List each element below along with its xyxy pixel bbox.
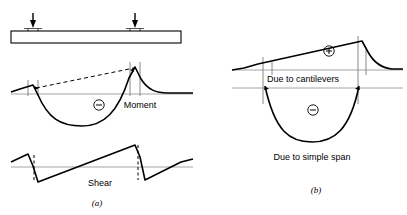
moment-negative-sign: [94, 100, 104, 110]
due-to-simple-span-label: Due to simple span: [273, 152, 350, 162]
shear-diagram-label: Shear: [88, 178, 112, 188]
shear-diagram-curve: [11, 145, 193, 182]
beam-member: [11, 31, 181, 43]
cantilever-positive-sign: [324, 46, 334, 56]
panel-a-group: Moment Shear (a): [11, 13, 193, 208]
figure-canvas: Moment Shear (a): [0, 0, 407, 215]
moment-diagram-label: Moment: [124, 100, 157, 110]
simple-span-negative-sign: [308, 105, 318, 115]
simple-span-moment-curve: [265, 86, 359, 142]
right-point-load-arrow: [132, 13, 138, 28]
panel-b-group: Due to cantilevers Due to simple span (b…: [232, 36, 403, 195]
cantilever-moment-curve: [232, 41, 403, 70]
panel-b-figure-label: (b): [311, 185, 322, 195]
moment-chord-dashed: [36, 68, 134, 88]
panel-a-figure-label: (a): [92, 198, 103, 208]
moment-diagram-curve: [11, 67, 193, 126]
due-to-cantilevers-label: Due to cantilevers: [267, 74, 340, 84]
left-point-load-arrow: [30, 13, 36, 28]
structural-diagram-figure: Moment Shear (a): [0, 0, 407, 215]
